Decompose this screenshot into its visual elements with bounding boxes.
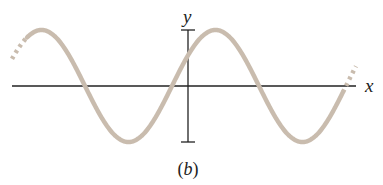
figure-caption: (b) xyxy=(178,159,199,180)
x-axis-label: x xyxy=(364,75,374,96)
wave-diagram: y x (b) xyxy=(0,0,383,185)
wave-continuation-left xyxy=(12,38,27,59)
y-axis-label: y xyxy=(181,6,192,27)
wave-continuation-right xyxy=(343,66,356,92)
